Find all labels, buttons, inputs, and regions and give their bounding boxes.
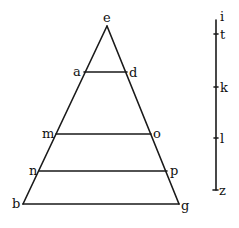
label-l: l bbox=[220, 131, 224, 146]
diagram-canvas: e a d m o n p b g i t k l z bbox=[0, 0, 239, 228]
label-z: z bbox=[219, 183, 226, 198]
label-b: b bbox=[12, 196, 20, 211]
label-k: k bbox=[220, 80, 228, 95]
label-d: d bbox=[129, 65, 137, 80]
label-g: g bbox=[181, 198, 189, 213]
triangle-right-side bbox=[107, 26, 179, 204]
label-m: m bbox=[42, 126, 54, 141]
label-a: a bbox=[73, 64, 81, 79]
label-t: t bbox=[220, 27, 226, 42]
label-i: i bbox=[220, 9, 224, 24]
label-n: n bbox=[29, 163, 38, 178]
label-e: e bbox=[103, 10, 111, 25]
label-o: o bbox=[153, 126, 161, 141]
label-p: p bbox=[170, 163, 178, 178]
